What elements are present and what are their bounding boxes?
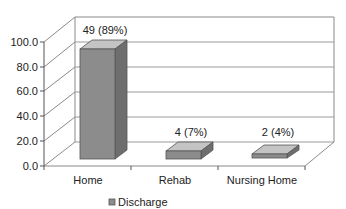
y-tick-20: 20.0 bbox=[17, 135, 38, 147]
bar-home bbox=[80, 40, 127, 159]
chart: 100.0 80.0 60.0 40.0 20.0 0.0 49 (89%) 4… bbox=[0, 0, 346, 209]
legend: Discharge bbox=[109, 196, 168, 208]
legend-label-discharge: Discharge bbox=[118, 196, 168, 208]
data-label-home: 49 (89%) bbox=[83, 24, 128, 36]
y-tick-40: 40.0 bbox=[17, 110, 38, 122]
data-label-rehab: 4 (7%) bbox=[175, 126, 207, 138]
bar-rehab bbox=[166, 142, 213, 159]
x-label-home: Home bbox=[73, 174, 102, 186]
y-tick-0: 0.0 bbox=[23, 160, 38, 172]
y-tick-labels: 100.0 80.0 60.0 40.0 20.0 0.0 bbox=[10, 36, 38, 172]
legend-swatch-icon bbox=[109, 199, 115, 205]
side-wall-grid bbox=[44, 17, 75, 166]
y-tick-60: 60.0 bbox=[17, 85, 38, 97]
bar-nursing-home bbox=[252, 145, 299, 158]
data-label-nursing-home: 2 (4%) bbox=[262, 126, 294, 138]
y-tick-80: 80.0 bbox=[17, 61, 38, 73]
y-tick-100: 100.0 bbox=[10, 36, 38, 48]
x-label-nursing-home: Nursing Home bbox=[227, 174, 297, 186]
x-label-rehab: Rehab bbox=[159, 174, 191, 186]
